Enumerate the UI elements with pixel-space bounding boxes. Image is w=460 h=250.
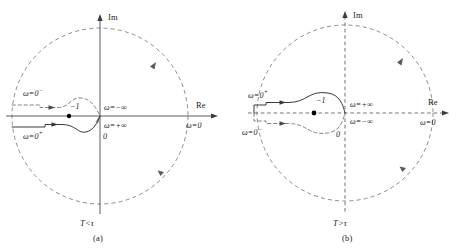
panel-a-omega-zero-plus: ω=0+: [23, 133, 43, 141]
real-axis-arrowhead: [211, 113, 218, 118]
panel-b-caption-index: (b): [342, 234, 353, 243]
circle-arrowhead-lower: [158, 171, 165, 177]
panel-a-caption-condition: T<τ: [80, 219, 94, 228]
locus-upper-arrowhead: [280, 100, 287, 105]
panel-b-critical-point-label: −1: [316, 97, 326, 105]
panel-a-re-axis-label: Re: [196, 101, 206, 110]
panel-a-origin-label: 0: [103, 133, 107, 141]
panel-a-omega-zero-minus-sup: −: [39, 87, 43, 93]
circle-arrowhead-upper: [397, 58, 403, 66]
panel-b-im-axis-label: Im: [353, 11, 363, 20]
figure-canvas: Im Re ω=0− ω=0+ ω=−∞ ω=+∞ ω=0 −1 0 T<τ (…: [0, 0, 460, 250]
panel-b-omega-zero-plus-sup: +: [264, 89, 268, 95]
panel-a-omega-zero-minus-text: ω=0: [23, 89, 39, 98]
panel-b-omega-zero-minus-text: ω=0: [242, 128, 258, 137]
real-axis-arrowhead: [442, 110, 449, 115]
panel-b-caption-condition: T>τ: [333, 219, 347, 228]
critical-point-marker: [67, 114, 71, 118]
panel-a-omega-zero-minus: ω=0−: [23, 90, 43, 98]
panel-a-omega-zero: ω=0: [186, 122, 202, 130]
panel-b-omega-negative-infinity: ω=−∞: [350, 118, 373, 126]
locus-lower-arrowhead: [52, 122, 59, 127]
locus-upper-dashed: [12, 98, 100, 116]
locus-upper-arrowhead: [49, 105, 56, 110]
locus-lower-dashed: [254, 113, 345, 133]
panel-a-im-axis-label: Im: [108, 13, 118, 22]
panel-a-omega-zero-plus-text: ω=0: [23, 132, 39, 141]
panel-b-omega-zero-minus: ω=0−: [242, 129, 262, 137]
panel-b-origin-label: 0: [336, 131, 340, 139]
panel-b-omega-zero-minus-sup: −: [258, 126, 262, 132]
panel-b-omega-zero-plus-text: ω=0: [248, 91, 264, 100]
circle-arrowhead-lower: [400, 167, 407, 173]
imaginary-axis-arrowhead: [342, 11, 347, 18]
panel-a-critical-point-label: −1: [70, 103, 80, 111]
circle-arrowhead-upper: [150, 62, 156, 70]
panel-b-omega-positive-infinity: ω=+∞: [350, 101, 373, 109]
imaginary-axis-arrowhead: [97, 14, 102, 21]
nyquist-panel-a: Im Re ω=0− ω=0+ ω=−∞ ω=+∞ ω=0 −1 0 T<τ (…: [0, 0, 230, 250]
panel-a-caption-index: (a): [93, 234, 103, 243]
panel-a-omega-positive-infinity: ω=+∞: [104, 122, 127, 130]
panel-b-re-axis-label: Re: [428, 98, 438, 107]
panel-a-omega-zero-plus-sup: +: [39, 130, 43, 136]
nyquist-panel-b: Im Re ω=0+ ω=0− ω=+∞ ω=−∞ ω=0 −1 0 T>τ (…: [230, 0, 460, 250]
locus-lower-arrowhead: [280, 121, 287, 126]
critical-point-marker: [312, 111, 317, 116]
panel-b-omega-zero: ω=0: [420, 119, 436, 127]
panel-a-omega-negative-infinity: ω=−∞: [104, 104, 127, 112]
panel-b-omega-zero-plus: ω=0+: [248, 92, 268, 100]
